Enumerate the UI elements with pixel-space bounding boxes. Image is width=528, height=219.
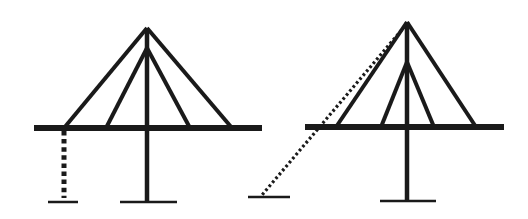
stay-cable [381, 62, 407, 127]
stay-cable [147, 48, 190, 128]
bridge-diagram-svg [0, 0, 528, 219]
bridge-figure-right [248, 22, 504, 201]
stay-cable [407, 62, 434, 127]
stay-cable [64, 28, 147, 128]
stay-cable [147, 28, 232, 128]
dotted-backstay [262, 26, 405, 195]
stay-cable [336, 22, 407, 127]
bridge-diagram [0, 0, 528, 219]
bridge-figure-left [34, 28, 262, 202]
stay-cable [106, 48, 147, 128]
stay-cable [407, 22, 476, 127]
